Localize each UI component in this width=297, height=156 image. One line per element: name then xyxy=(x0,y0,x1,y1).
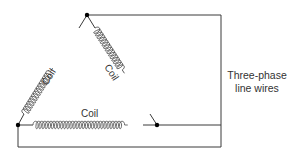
bottom-coil-label: Coil xyxy=(81,108,98,119)
bottom-coil: Coil xyxy=(18,108,157,129)
left-coil-label: Coil xyxy=(39,67,57,87)
left-coil: Coil xyxy=(18,15,87,125)
bottom-right-junction-node xyxy=(155,123,159,127)
top-junction-node xyxy=(85,13,89,17)
bottom-coil-winding xyxy=(33,121,128,129)
bottom-left-junction-node xyxy=(16,123,20,127)
three-phase-line-wires-label: Three-phase line wires xyxy=(224,69,290,95)
line-wires-label-line1: Three-phase xyxy=(224,69,290,82)
line-wires-label-line2: line wires xyxy=(224,82,290,95)
